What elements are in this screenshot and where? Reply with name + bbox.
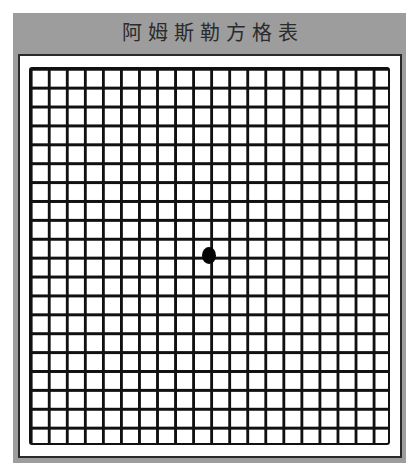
chart-title: 阿姆斯勒方格表 — [13, 13, 406, 54]
fixation-dot — [202, 247, 216, 264]
